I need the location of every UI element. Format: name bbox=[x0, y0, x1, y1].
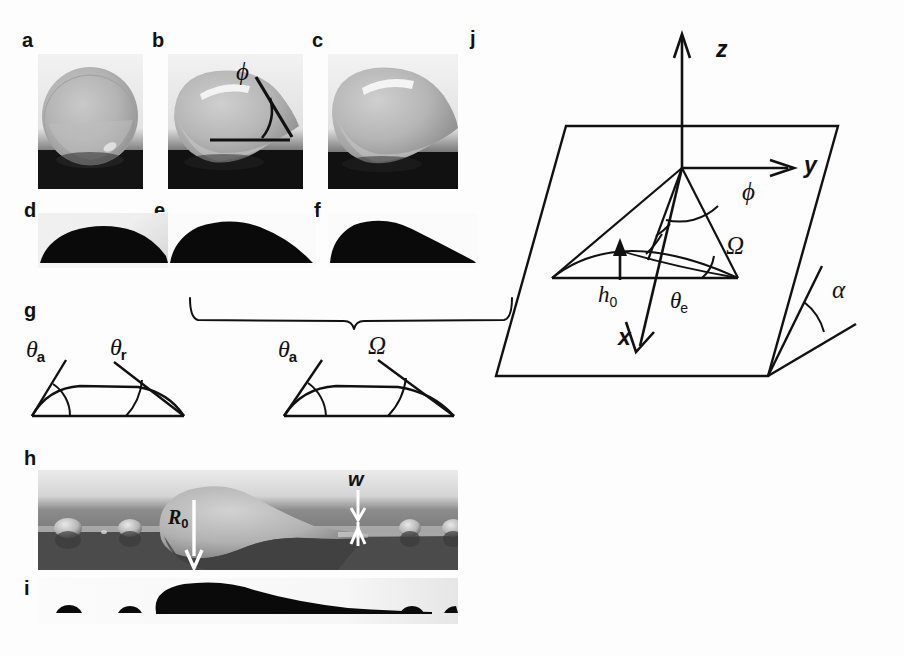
panel-letter-d: d bbox=[24, 200, 36, 220]
panel-b-phi-label: ϕ bbox=[236, 58, 249, 86]
panel-h-R0-label: R0 bbox=[168, 506, 189, 529]
panel-j-schematic bbox=[470, 28, 900, 388]
theta-a-subscript-2: a bbox=[289, 348, 297, 365]
theta-a-subscript: a bbox=[37, 348, 45, 365]
theta-e-chord bbox=[618, 250, 738, 278]
panel-letter-b: b bbox=[152, 30, 164, 50]
panel-j-alpha-label: α bbox=[832, 276, 845, 304]
figure-root: a b c d e f g h i j bbox=[0, 0, 904, 656]
panel-e-photo bbox=[168, 213, 316, 268]
panel-j-h0-label: h0 bbox=[598, 282, 617, 308]
panel-letter-h: h bbox=[24, 448, 36, 468]
panel-g-left-theta-r: θr bbox=[110, 334, 128, 361]
panel-g-left-theta-a: θa bbox=[26, 336, 46, 363]
panel-h-w-label: w bbox=[348, 468, 364, 491]
panel-j-omega-label: Ω bbox=[726, 232, 744, 260]
panel-j-x-label: x bbox=[618, 324, 631, 351]
panel-letter-i: i bbox=[24, 578, 30, 598]
panel-h-photo bbox=[38, 470, 458, 570]
R0-symbol: R bbox=[168, 506, 181, 528]
panel-i-photo bbox=[38, 578, 458, 624]
h0-subscript: 0 bbox=[610, 294, 618, 310]
panel-f-photo bbox=[328, 213, 478, 268]
panel-c-photo bbox=[328, 54, 458, 189]
panel-g-right-theta-a: θa bbox=[278, 336, 298, 363]
h0-symbol: h bbox=[598, 282, 610, 307]
panel-letter-c: c bbox=[312, 30, 323, 50]
theta-e-subscript: e bbox=[680, 300, 688, 316]
alpha-arc bbox=[804, 302, 824, 332]
panel-g-right-omega: Ω bbox=[368, 332, 386, 360]
h0-arrow-head bbox=[613, 238, 627, 256]
panel-h-w-double-arrow bbox=[345, 488, 371, 550]
panel-j-y-label: y bbox=[804, 152, 817, 179]
R0-subscript: 0 bbox=[181, 516, 188, 531]
panel-j-theta-e-label: θe bbox=[670, 288, 689, 314]
panel-g-bracket bbox=[186, 296, 516, 330]
cone-edge-right bbox=[682, 168, 738, 278]
panel-a-photo bbox=[38, 54, 143, 189]
panel-j-z-label: z bbox=[716, 36, 728, 63]
omega-arc-2 bbox=[646, 234, 662, 254]
panel-letter-g: g bbox=[24, 300, 36, 320]
theta-r-subscript: r bbox=[121, 346, 127, 363]
panel-d-photo bbox=[38, 213, 176, 268]
panel-j-phi-label: ϕ bbox=[742, 178, 755, 206]
panel-letter-a: a bbox=[22, 30, 33, 50]
